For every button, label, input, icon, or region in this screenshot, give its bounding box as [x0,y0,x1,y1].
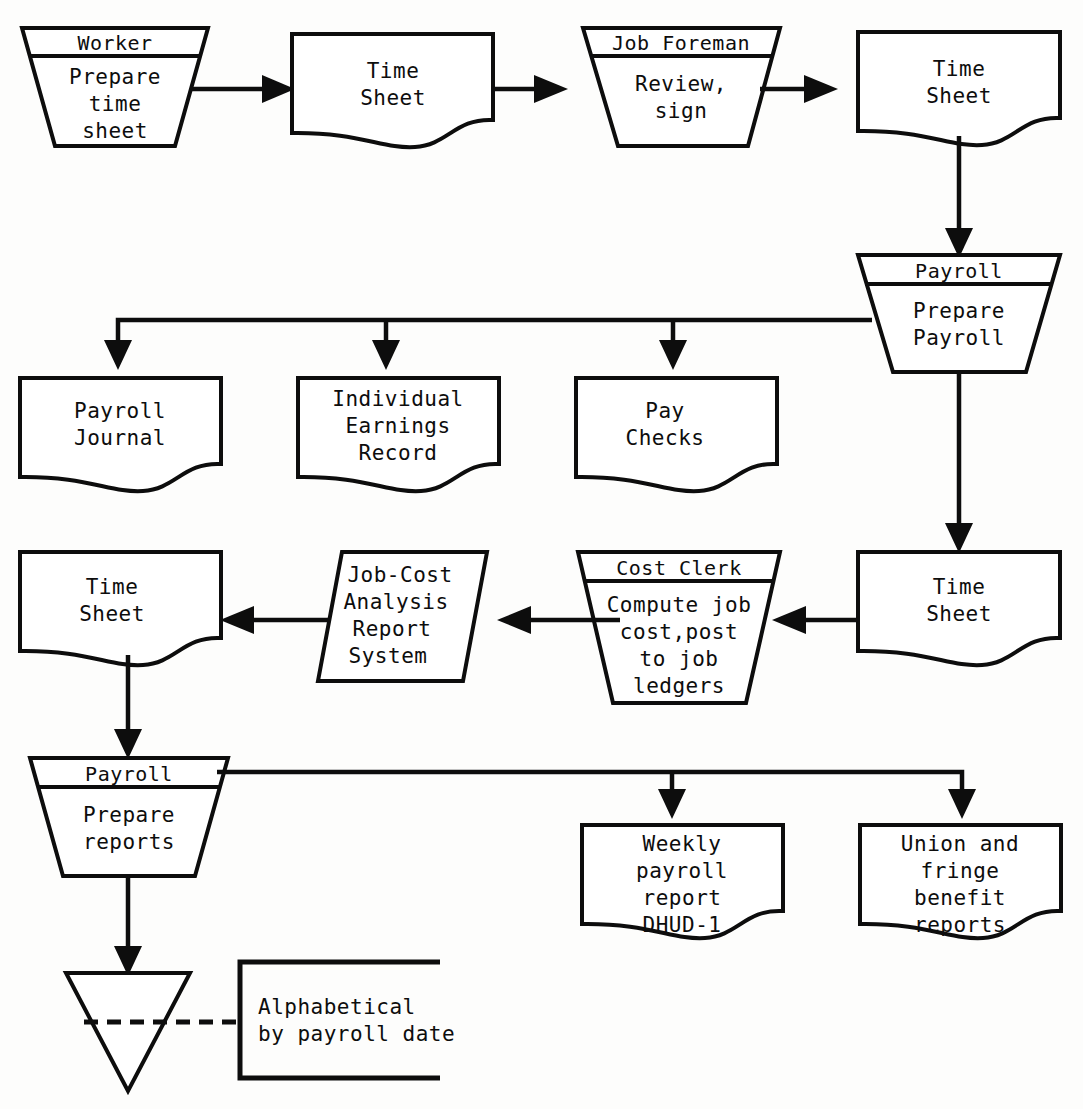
node-weekly-report-line-3: DHUD-1 [643,913,722,937]
node-payroll-reports-line-1: reports [83,830,175,854]
node-cost-clerk-line-2: to job [640,647,719,671]
node-worker-process-line-0: Prepare [69,65,161,89]
node-jobcost-system-line-3: System [349,644,428,668]
connector-payroll-outputs-bus [104,320,872,370]
node-cost-clerk-line-1: cost,post [620,620,738,644]
node-payroll-journal-line-1: Journal [74,426,166,450]
connector-worker-to-timesheet1 [190,75,295,103]
connector-payrollreports-to-file [114,876,142,976]
node-union-reports-line-1: fringe [921,859,1000,883]
node-timesheet-1-line-1: Sheet [360,86,426,110]
node-union-reports-line-0: Union and [901,832,1019,856]
node-payroll-journal[interactable]: Payroll Journal [20,378,221,491]
node-file-annotation-line-0: Alphabetical [258,995,416,1019]
node-union-reports-line-3: reports [914,913,1006,937]
node-timesheet-3-line-1: Sheet [926,602,992,626]
node-weekly-report-line-0: Weekly [643,832,722,856]
node-cost-clerk-line-0: Compute job [607,593,752,617]
node-payroll-prepare-header: Payroll [915,259,1003,283]
node-union-reports[interactable]: Union and fringe benefit reports [860,825,1061,938]
node-timesheet-4[interactable]: Time Sheet [20,552,221,665]
connector-timesheet1-to-foreman [493,75,568,103]
node-timesheet-2-line-1: Sheet [926,84,992,108]
node-worker-process[interactable]: Worker Prepare time sheet [22,28,208,146]
node-earnings-record[interactable]: Individual Earnings Record [298,378,499,491]
node-weekly-report-line-2: report [643,886,722,910]
node-timesheet-1[interactable]: Time Sheet [292,34,493,147]
connector-jobcost-to-timesheet4 [220,606,330,634]
node-earnings-record-line-0: Individual [332,387,463,411]
connector-timesheet4-to-payrollreports [114,655,142,759]
connector-timesheet3-to-costclerk [772,606,858,634]
node-timesheet-4-line-1: Sheet [79,602,145,626]
node-payroll-reports[interactable]: Payroll Prepare reports [30,758,228,876]
node-pay-checks[interactable]: Pay Checks [576,378,777,491]
node-cost-clerk-header: Cost Clerk [616,556,741,580]
node-payroll-journal-line-0: Payroll [74,399,166,423]
node-jobcost-system[interactable]: Job-Cost Analysis Report System [318,552,487,681]
node-file-annotation: Alphabetical by payroll date [240,962,455,1078]
node-cost-clerk[interactable]: Cost Clerk Compute job cost,post to job … [578,552,780,703]
node-foreman-process[interactable]: Job Foreman Review, sign [583,28,780,146]
node-timesheet-4-line-0: Time [86,575,139,599]
connector-foreman-to-timesheet2 [760,75,838,103]
node-foreman-process-line-1: sign [655,99,708,123]
node-timesheet-2[interactable]: Time Sheet [858,32,1060,145]
node-file-store[interactable] [66,973,240,1091]
node-file-annotation-line-1: by payroll date [258,1022,455,1046]
connector-payrollreports-outputs-bus [217,772,976,819]
node-weekly-report[interactable]: Weekly payroll report DHUD-1 [582,825,783,938]
flowchart-svg: Worker Prepare time sheet Time Sheet Job… [0,0,1083,1109]
node-payroll-reports-header: Payroll [85,762,173,786]
node-jobcost-system-line-1: Analysis [343,590,448,614]
node-timesheet-1-line-0: Time [367,59,420,83]
node-timesheet-2-line-0: Time [933,57,986,81]
flowchart-canvas: Worker Prepare time sheet Time Sheet Job… [0,0,1083,1109]
connector-payroll-to-timesheet3 [945,372,973,553]
node-worker-process-line-2: sheet [82,119,148,143]
node-worker-process-header: Worker [77,31,152,55]
connector-timesheet2-to-payroll [945,136,973,258]
node-payroll-reports-line-0: Prepare [83,803,175,827]
node-cost-clerk-line-3: ledgers [633,674,725,698]
node-pay-checks-line-0: Pay [645,399,684,423]
node-jobcost-system-line-2: Report [353,617,432,641]
node-payroll-prepare[interactable]: Payroll Prepare Payroll [858,255,1060,372]
node-earnings-record-line-2: Record [359,441,438,465]
node-payroll-prepare-line-1: Payroll [913,326,1005,350]
node-union-reports-line-2: benefit [914,886,1006,910]
node-timesheet-3-line-0: Time [933,575,986,599]
node-jobcost-system-line-0: Job-Cost [347,563,452,587]
node-payroll-prepare-line-0: Prepare [913,299,1005,323]
node-earnings-record-line-1: Earnings [345,414,450,438]
node-timesheet-3[interactable]: Time Sheet [858,552,1060,665]
node-foreman-process-header: Job Foreman [612,31,750,55]
node-weekly-report-line-1: payroll [636,859,728,883]
node-foreman-process-line-0: Review, [635,72,727,96]
node-pay-checks-line-1: Checks [626,426,705,450]
node-worker-process-line-1: time [89,92,142,116]
